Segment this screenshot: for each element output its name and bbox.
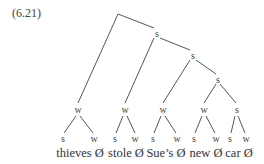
word-new: new Ø bbox=[190, 146, 223, 160]
word-sues: Sue’s Ø bbox=[146, 146, 185, 160]
branch bbox=[160, 38, 190, 50]
node-s2: s bbox=[191, 50, 195, 61]
leaf-s: s bbox=[192, 133, 196, 144]
node-s3: s bbox=[216, 74, 220, 85]
leaf-w: w bbox=[90, 133, 98, 144]
leaf-s: s bbox=[228, 133, 232, 144]
word-stole: stole Ø bbox=[108, 146, 144, 160]
leaf-s: s bbox=[113, 133, 117, 144]
branch bbox=[196, 60, 216, 74]
leaf-w: w bbox=[242, 133, 250, 144]
branch bbox=[204, 84, 216, 103]
branch bbox=[125, 38, 154, 103]
node-w1: w bbox=[74, 104, 82, 115]
leaf-w: w bbox=[212, 133, 220, 144]
leaf-s: s bbox=[151, 133, 155, 144]
leaf-w: w bbox=[131, 133, 139, 144]
node-s4: s bbox=[235, 104, 239, 115]
root-branch bbox=[78, 14, 154, 103]
node-w4: w bbox=[200, 104, 208, 115]
branch bbox=[163, 60, 190, 103]
node-w2: w bbox=[121, 104, 129, 115]
node-w3: w bbox=[159, 104, 167, 115]
metrical-tree: s s s s w w w w s w s w s w s w s w thie… bbox=[0, 0, 264, 164]
word-thieves: thieves Ø bbox=[56, 146, 104, 160]
leaf-s: s bbox=[61, 133, 65, 144]
branch bbox=[220, 84, 236, 103]
node-s1: s bbox=[155, 28, 159, 39]
word-car: car Ø bbox=[225, 146, 252, 160]
leaf-w: w bbox=[173, 133, 181, 144]
